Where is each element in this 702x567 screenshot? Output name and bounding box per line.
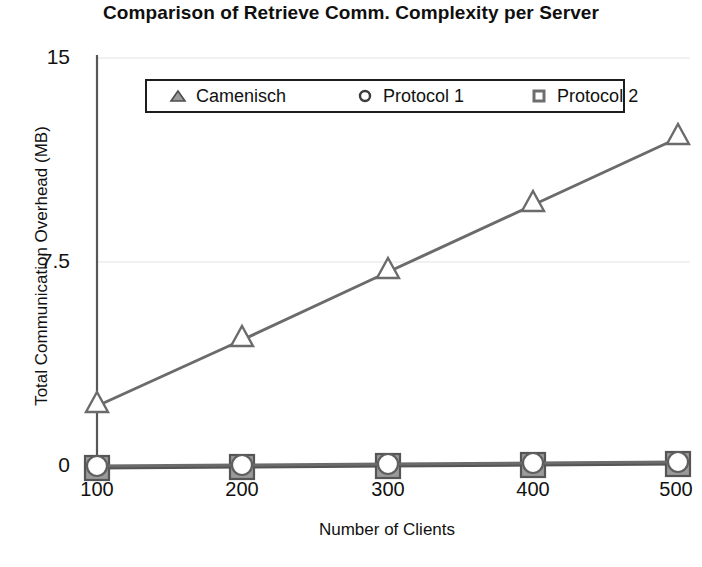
series-camenisch: [86, 124, 689, 412]
y-axis-tick-0: 0: [10, 453, 70, 477]
y-axis-label: Total Communication Overhead (MB): [32, 76, 52, 456]
square-marker-icon: [530, 88, 548, 104]
y-axis-tick-15: 15: [10, 45, 70, 69]
legend-label: Camenisch: [196, 86, 286, 107]
data-point-marker: [232, 455, 252, 475]
x-axis-tick-200: 200: [197, 478, 287, 501]
chart-figure: Comparison of Retrieve Comm. Complexity …: [0, 0, 702, 567]
legend-label: Protocol 1: [383, 86, 464, 107]
circle-marker-icon: [356, 88, 374, 104]
data-point-marker: [87, 456, 107, 476]
chart-legend: Camenisch Protocol 1 Protocol 2: [145, 79, 625, 113]
x-axis-tick-400: 400: [488, 478, 578, 501]
data-point-marker: [378, 454, 398, 474]
legend-item-protocol-2: Protocol 2: [530, 86, 638, 107]
x-axis-tick-500: 500: [631, 478, 702, 501]
data-point-marker: [523, 453, 543, 473]
data-point-marker: [668, 452, 688, 472]
data-point-marker: [667, 124, 689, 144]
legend-label: Protocol 2: [557, 86, 638, 107]
triangle-marker-icon: [169, 88, 187, 104]
legend-item-protocol-1: Protocol 1: [356, 86, 464, 107]
x-axis-tick-300: 300: [343, 478, 433, 501]
x-axis-tick-100: 100: [52, 478, 142, 501]
series-protocol-1: [87, 452, 688, 476]
legend-item-camenisch: Camenisch: [169, 86, 286, 107]
x-axis-label: Number of Clients: [97, 520, 677, 540]
